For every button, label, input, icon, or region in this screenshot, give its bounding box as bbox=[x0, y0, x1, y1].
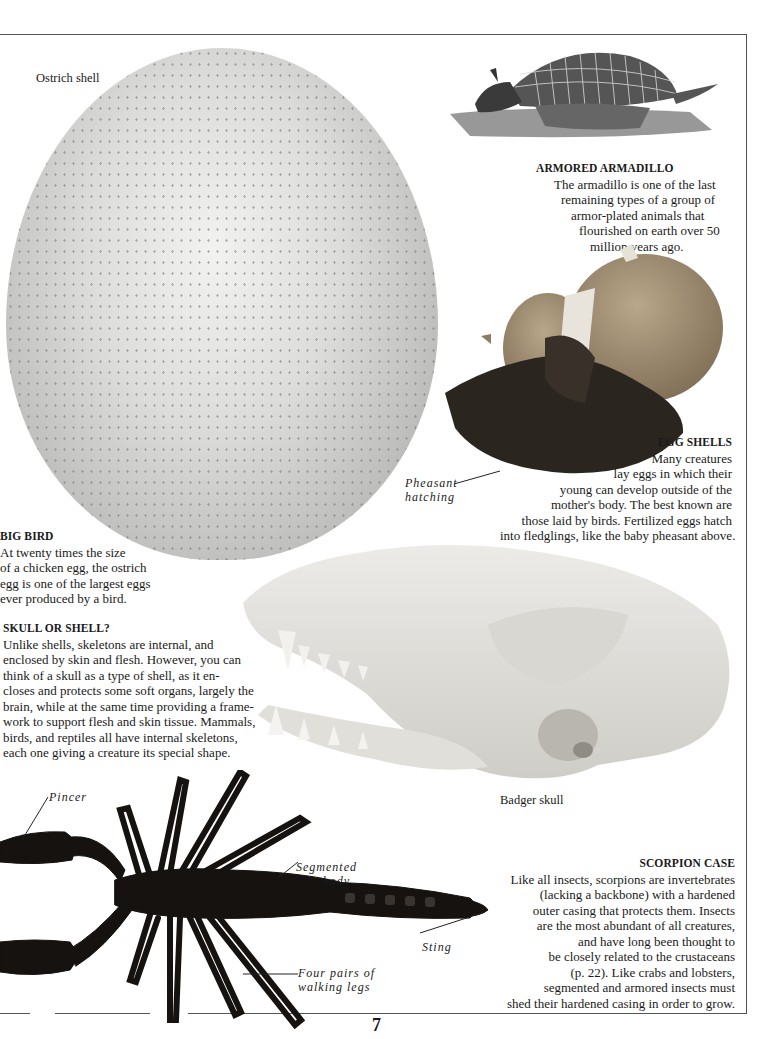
caption-line: (lacking a backbone) with a hardened bbox=[460, 887, 735, 903]
big-bird-caption: BIG BIRD At twenty times the size of a c… bbox=[0, 529, 230, 607]
caption-line: those laid by birds. Fertilized eggs hat… bbox=[500, 513, 746, 529]
caption-line: Unlike shells, skeletons are internal, a… bbox=[3, 637, 253, 653]
caption-line: segmented and armored insects must bbox=[460, 980, 735, 996]
caption-line: ever produced by a bird. bbox=[0, 591, 230, 607]
caption-line: armor-plated animals that bbox=[571, 208, 746, 224]
caption-line: lay eggs in which their bbox=[500, 466, 746, 482]
caption-line: young can develop outside of the bbox=[500, 482, 746, 498]
caption-line: The armadillo is one of the last bbox=[554, 177, 746, 193]
scorpion-case-caption: SCORPION CASE Like all insects, scorpion… bbox=[460, 856, 735, 1011]
caption-line: brain, while at the same time providing … bbox=[3, 699, 253, 715]
segmented-body-label: Segmented body bbox=[296, 860, 350, 888]
caption-line: flourished on earth over 50 bbox=[579, 223, 746, 239]
caption-line: outer casing that protects them. Insects bbox=[460, 903, 735, 919]
walking-legs-label: Four pairs of walking legs bbox=[298, 966, 375, 994]
pheasant-leader-line bbox=[452, 468, 502, 488]
caption-heading: SKULL OR SHELL? bbox=[3, 621, 253, 637]
caption-line: Like all insects, scorpions are inverteb… bbox=[460, 872, 735, 888]
caption-line: Many creatures bbox=[500, 451, 746, 467]
pincer-label: Pincer bbox=[49, 790, 87, 804]
ostrich-egg-speckles bbox=[6, 48, 438, 560]
page-right-rule bbox=[746, 34, 747, 1014]
label-line: Four pairs of bbox=[298, 966, 375, 980]
caption-line: At twenty times the size bbox=[0, 545, 230, 561]
page-number: 7 bbox=[372, 1015, 381, 1036]
label-line: Segmented bbox=[296, 860, 350, 874]
caption-heading: EGG SHELLS bbox=[500, 435, 746, 451]
caption-line: birds, and reptiles all have internal sk… bbox=[3, 730, 253, 746]
armadillo-engraving bbox=[440, 42, 720, 158]
badger-skull-label: Badger skull bbox=[500, 793, 564, 808]
label-line: walking legs bbox=[298, 980, 375, 994]
caption-line: each one giving a creature its special s… bbox=[3, 745, 253, 761]
caption-line: of a chicken egg, the ostrich bbox=[0, 560, 230, 576]
skull-or-shell-caption: SKULL OR SHELL? Unlike shells, skeletons… bbox=[3, 621, 253, 761]
badger-skull-image bbox=[238, 535, 738, 805]
label-line: body bbox=[296, 874, 350, 888]
caption-line: mother's body. The best known are bbox=[500, 497, 746, 513]
caption-line: closes and protects some soft organs, la… bbox=[3, 683, 253, 699]
sting-label: Sting bbox=[422, 940, 452, 954]
caption-line: shed their hardened casing in order to g… bbox=[460, 996, 735, 1012]
caption-line: are the most abundant of all creatures, bbox=[460, 918, 735, 934]
caption-line: work to support flesh and skin tissue. M… bbox=[3, 714, 253, 730]
caption-line: and have long been thought to bbox=[460, 934, 735, 950]
caption-heading: SCORPION CASE bbox=[460, 856, 735, 872]
page-top-rule bbox=[0, 34, 747, 35]
caption-heading: BIG BIRD bbox=[0, 529, 230, 545]
label-line: hatching bbox=[405, 490, 453, 504]
scorpion-image bbox=[0, 770, 490, 1035]
caption-line: enclosed by skin and flesh. However, you… bbox=[3, 652, 253, 668]
caption-line: be closely related to the crustaceans bbox=[460, 949, 735, 965]
caption-heading: ARMORED ARMADILLO bbox=[536, 161, 746, 177]
pheasant-hatching-label: Pheasant hatching bbox=[405, 476, 453, 504]
ostrich-shell-label: Ostrich shell bbox=[36, 71, 100, 86]
caption-line: egg is one of the largest eggs bbox=[0, 576, 230, 592]
label-line: Pheasant bbox=[405, 476, 453, 490]
egg-shells-caption: EGG SHELLS Many creatures lay eggs in wh… bbox=[500, 435, 746, 544]
caption-line: remaining types of a group of bbox=[561, 192, 746, 208]
caption-line: (p. 22). Like crabs and lobsters, bbox=[460, 965, 735, 981]
caption-line: think of a skull as a type of shell, as … bbox=[3, 668, 253, 684]
